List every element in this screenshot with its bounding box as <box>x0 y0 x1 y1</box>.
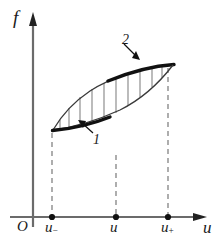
hatch-fill <box>60 66 162 129</box>
tick-label-u-middle-base: u <box>110 219 118 235</box>
curve-1-lower <box>53 65 173 130</box>
u-axis <box>10 213 207 221</box>
tick-label-u-minus: u− <box>45 220 58 237</box>
curve-2-label: 2 <box>122 33 129 47</box>
plot-svg <box>0 0 224 241</box>
tick-label-u-plus-subscript: + <box>169 226 174 236</box>
u-axis-label: u <box>203 219 212 236</box>
f-axis <box>29 12 37 227</box>
tick-label-u-minus-base: u <box>45 219 53 235</box>
tick-label-u-plus-base: u <box>161 219 169 235</box>
curve-1-label: 1 <box>93 133 100 147</box>
curve-2-upper <box>53 65 173 130</box>
curve-2-thick-segment <box>108 65 174 82</box>
tick-label-u-plus: u+ <box>161 220 174 237</box>
origin-label: O <box>17 219 28 234</box>
f-axis-arrowhead <box>29 12 37 26</box>
tick-label-u-minus-subscript: − <box>53 226 58 236</box>
f-axis-label: f <box>13 8 18 27</box>
tick-label-u-middle: u <box>110 220 118 237</box>
curve-2-arrowhead <box>132 51 140 60</box>
figure-canvas: f u O u− u u+ 1 2 <box>0 0 224 241</box>
